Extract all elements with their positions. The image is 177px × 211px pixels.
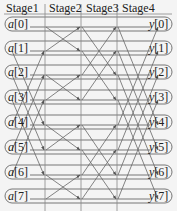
input-label: a[1] — [8, 42, 28, 54]
stage2-label: Stage2 — [49, 1, 82, 16]
row-pill — [5, 65, 172, 79]
output-label: y[1] — [149, 42, 168, 54]
butterfly-diagram: Stage1 Stage2 Stage3 Stage4 a[0]a[1]a[2]… — [0, 0, 177, 211]
output-label: y[2] — [149, 66, 168, 78]
input-label: a[2] — [8, 66, 28, 78]
input-label: a[6] — [8, 166, 28, 178]
row-pill — [5, 189, 172, 203]
row-pill — [5, 17, 172, 31]
input-label: a[0] — [8, 18, 28, 30]
output-label: y[7] — [149, 190, 168, 202]
stage4-label: Stage4 — [122, 1, 155, 16]
stage3-label: Stage3 — [86, 1, 119, 16]
output-label: y[5] — [149, 141, 168, 153]
input-label: a[5] — [8, 141, 28, 153]
row-pill — [5, 41, 172, 55]
input-label: a[4] — [8, 116, 28, 128]
input-label: a[7] — [8, 190, 28, 202]
diagram-graphics — [0, 0, 177, 211]
output-label: y[6] — [149, 166, 168, 178]
stage1-label: Stage1 — [6, 1, 39, 16]
output-label: y[0] — [149, 18, 168, 30]
output-label: y[4] — [149, 116, 168, 128]
input-label: a[3] — [8, 91, 28, 103]
output-label: y[3] — [149, 91, 168, 103]
